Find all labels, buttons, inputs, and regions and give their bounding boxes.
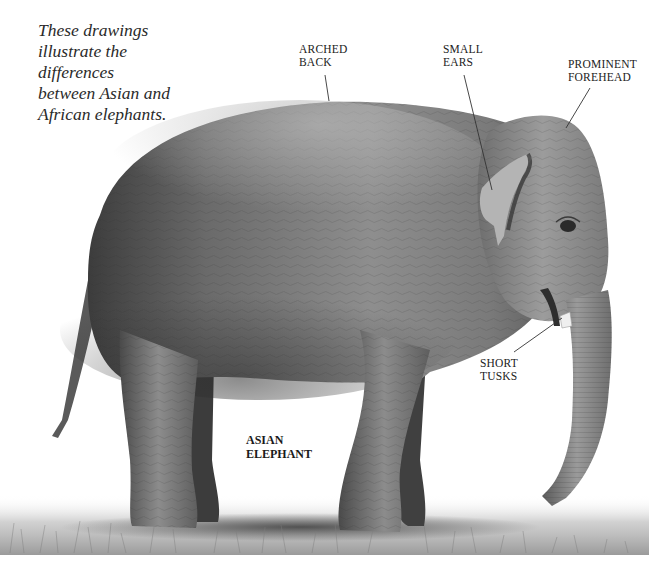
illustration: These drawings illustrate the difference… [0,0,649,570]
callout-short-tusks: SHORT TUSKS [480,357,518,383]
eye [560,220,576,232]
callout-small-ears: SMALL EARS [443,43,483,69]
callout-prominent-forehead: PROMINENT FOREHEAD [568,58,637,84]
callout-arched-back: ARCHED BACK [299,43,347,69]
species-label: ASIAN ELEPHANT [246,433,312,461]
intro-caption: These drawings illustrate the difference… [38,20,188,125]
